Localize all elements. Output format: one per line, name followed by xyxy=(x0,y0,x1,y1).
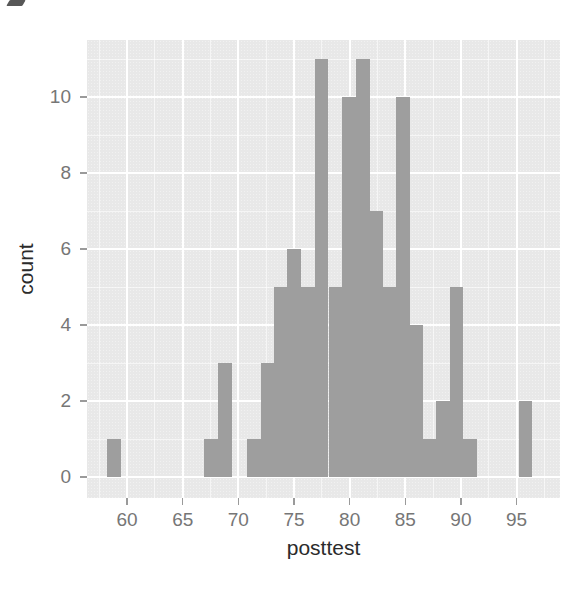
histogram-bar xyxy=(329,287,342,477)
y-tick-label: 0 xyxy=(0,466,71,488)
histogram-bar xyxy=(383,287,396,477)
x-minor-gridline xyxy=(433,40,434,498)
x-minor-gridline xyxy=(154,40,155,498)
y-axis-tick xyxy=(80,172,87,174)
x-axis-tick xyxy=(238,498,240,505)
histogram-figure: 60657075808590950246810 posttest count xyxy=(0,0,580,589)
y-axis-tick xyxy=(80,96,87,98)
histogram-bar xyxy=(436,401,449,477)
x-tick-label: 85 xyxy=(395,509,416,531)
y-tick-label: 2 xyxy=(0,390,71,412)
x-major-gridline xyxy=(182,40,184,498)
x-axis-tick xyxy=(293,498,295,505)
y-axis-tick xyxy=(80,476,87,478)
histogram-bar xyxy=(463,439,476,477)
x-axis-tick xyxy=(126,498,128,505)
x-major-gridline xyxy=(516,40,518,498)
x-axis-tick xyxy=(460,498,462,505)
x-minor-gridline xyxy=(210,40,211,498)
y-axis-tick xyxy=(80,248,87,250)
histogram-bar xyxy=(315,59,328,477)
scan-artifact-mark xyxy=(6,0,25,6)
histogram-bar xyxy=(287,249,300,477)
x-axis-tick xyxy=(182,498,184,505)
x-major-gridline xyxy=(126,40,128,498)
x-tick-label: 90 xyxy=(450,509,471,531)
y-tick-label: 10 xyxy=(0,86,71,108)
histogram-bar xyxy=(301,287,315,477)
y-axis-tick xyxy=(80,324,87,326)
histogram-bar xyxy=(274,287,287,477)
histogram-bar xyxy=(450,287,463,477)
histogram-bar xyxy=(370,211,383,477)
plot-panel xyxy=(87,40,560,498)
y-axis-tick xyxy=(80,400,87,402)
histogram-bar xyxy=(356,59,369,477)
histogram-bar xyxy=(423,439,436,477)
histogram-bar xyxy=(519,401,532,477)
histogram-bar xyxy=(410,325,423,477)
x-tick-label: 80 xyxy=(339,509,360,531)
x-axis-tick xyxy=(516,498,518,505)
histogram-bar xyxy=(204,439,218,477)
x-major-gridline xyxy=(237,40,239,498)
x-axis-title: posttest xyxy=(87,536,560,560)
x-axis-tick xyxy=(349,498,351,505)
x-tick-label: 95 xyxy=(506,509,527,531)
y-tick-label: 8 xyxy=(0,162,71,184)
histogram-bar xyxy=(218,363,231,477)
x-tick-label: 60 xyxy=(116,509,137,531)
x-tick-label: 70 xyxy=(228,509,249,531)
histogram-bar xyxy=(261,363,274,477)
x-minor-gridline xyxy=(99,40,100,498)
histogram-bar xyxy=(247,439,260,477)
x-tick-label: 65 xyxy=(172,509,193,531)
y-axis-title: count xyxy=(14,209,38,329)
x-minor-gridline xyxy=(488,40,489,498)
x-minor-gridline xyxy=(544,40,545,498)
x-tick-label: 75 xyxy=(283,509,304,531)
histogram-bar xyxy=(107,439,121,477)
histogram-bar xyxy=(342,97,356,477)
x-axis-tick xyxy=(405,498,407,505)
histogram-bar xyxy=(396,97,409,477)
